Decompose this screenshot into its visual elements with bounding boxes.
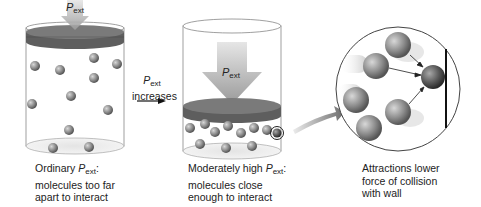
pressure-symbol: P xyxy=(266,162,273,174)
caption-text: : xyxy=(283,162,286,174)
transition-text: increases xyxy=(132,90,172,102)
caption-ordinary: Ordinary Pext: molecules too far apart t… xyxy=(35,162,115,204)
caption-line: force of collision xyxy=(362,175,440,188)
caption-text: Ordinary xyxy=(35,162,78,174)
pext-label-moderately-high: Pext xyxy=(222,66,240,80)
caption-line: apart to interact xyxy=(35,191,115,204)
caption-line: molecules too far xyxy=(35,179,115,192)
caption-line: molecules close xyxy=(188,179,286,192)
cylinder-ordinary xyxy=(26,0,124,154)
caption-line: Attractions lower xyxy=(362,162,440,175)
pressure-subscript: ext xyxy=(85,167,96,176)
pext-label-ordinary: Pext xyxy=(66,1,84,15)
cylinder-moderately-high xyxy=(183,19,281,159)
caption-line: with wall xyxy=(362,187,440,200)
zoom-arrow xyxy=(293,106,345,134)
caption-moderately-high: Moderately high Pext: molecules close en… xyxy=(188,162,286,204)
caption-line: enough to interact xyxy=(188,191,286,204)
pressure-subscript: ext xyxy=(73,6,84,15)
caption-text: Moderately high xyxy=(188,162,266,174)
caption-text: : xyxy=(96,162,99,174)
pressure-subscript: ext xyxy=(150,79,161,88)
pressure-subscript: ext xyxy=(273,167,284,176)
transition-label: Pext increases xyxy=(132,74,172,102)
pressure-subscript: ext xyxy=(229,71,240,80)
magnified-view xyxy=(336,27,460,151)
caption-magnified: Attractions lower force of collision wit… xyxy=(362,162,440,200)
